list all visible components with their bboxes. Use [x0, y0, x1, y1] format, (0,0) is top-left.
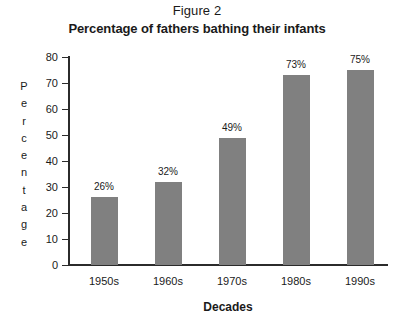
x-axis-category-label: 1970s	[202, 276, 262, 287]
x-axis-category-label: 1960s	[138, 276, 198, 287]
bar-value-label: 32%	[138, 167, 198, 177]
y-axis-tick	[62, 265, 69, 266]
y-axis-label-letter: r	[17, 113, 31, 130]
bar-value-label: 73%	[266, 60, 326, 70]
figure-number: Figure 2	[0, 3, 394, 18]
y-axis-tick-label: 20	[18, 208, 58, 219]
y-axis-tick	[62, 57, 69, 58]
y-axis-tick	[62, 187, 69, 188]
y-axis-tick-label: 40	[18, 156, 58, 167]
bar-value-label: 26%	[74, 182, 134, 192]
y-axis-tick-label: 0	[18, 260, 58, 271]
y-axis-tick-label: 60	[18, 104, 58, 115]
x-axis-category-label: 1980s	[266, 276, 326, 287]
y-axis-tick-label: 80	[18, 52, 58, 63]
x-axis-label: Decades	[68, 300, 388, 314]
bar[interactable]	[347, 70, 374, 265]
y-axis-tick	[62, 213, 69, 214]
y-axis-label-letter: n	[17, 164, 31, 181]
bar[interactable]	[283, 75, 310, 265]
bar[interactable]	[91, 197, 118, 265]
y-axis-tick-label: 30	[18, 182, 58, 193]
x-axis-category-label: 1950s	[74, 276, 134, 287]
y-axis-tick-label: 10	[18, 234, 58, 245]
bar-value-label: 75%	[330, 55, 390, 65]
y-axis-tick	[62, 161, 69, 162]
y-axis-tick	[62, 135, 69, 136]
bar[interactable]	[219, 138, 246, 265]
bar[interactable]	[155, 182, 182, 265]
y-axis-tick-label: 70	[18, 78, 58, 89]
y-axis-tick	[62, 109, 69, 110]
bar-value-label: 49%	[202, 123, 262, 133]
figure-container: Figure 2 Percentage of fathers bathing t…	[0, 0, 394, 333]
chart-title: Percentage of fathers bathing their infa…	[0, 21, 394, 36]
y-axis-tick	[62, 83, 69, 84]
y-axis-tick-label: 50	[18, 130, 58, 141]
y-axis-tick	[62, 239, 69, 240]
x-axis-category-label: 1990s	[330, 276, 390, 287]
